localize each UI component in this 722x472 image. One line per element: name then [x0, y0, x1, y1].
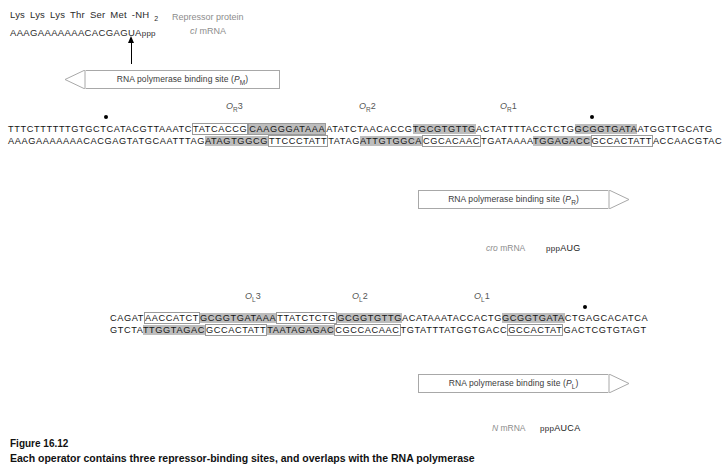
sequence-segment: TTCCCTATT [268, 135, 328, 147]
repressor-protein-block: LysLysLysThrSerMet-NH2 AAAGAAAAAAACACGAG… [10, 8, 158, 40]
or-left-dot-marker-icon [104, 115, 108, 119]
sequence-segment: ATAGTGGCG [205, 136, 268, 146]
sequence-segment: TATCACCG [192, 123, 248, 135]
sequence-segment: GCGGTGATA [502, 313, 565, 323]
amino-acid-2: Lys [30, 9, 45, 20]
sequence-segment: AACCATCT [144, 312, 200, 324]
sequence-segment: TGATAAAA [481, 136, 533, 146]
operator-label-ol2: OL2 [352, 291, 368, 303]
amino-acid-1: Lys [10, 9, 25, 20]
operator-label-or2: OR2 [359, 101, 376, 113]
figure-number: Figure 16.12 [10, 437, 475, 451]
sequence-segment: GCCACTAT [507, 324, 563, 336]
sequence-segment: GCCACTATT [205, 324, 267, 336]
sequence-segment: TGTATTTATGGTGACC [401, 325, 508, 335]
pr-arrow-body: RNA polymerase binding site (PR) [418, 190, 608, 209]
sequence-segment: ATTGTGGCA [360, 136, 422, 146]
arrow-head-right-icon [608, 374, 630, 393]
figure-title: Each operator contains three repressor-b… [10, 451, 475, 465]
amino-terminus: -NH2 [132, 9, 159, 20]
sequence-segment: TATAG [328, 136, 360, 146]
pl-arrow-body: RNA polymerase binding site (PL) [418, 374, 608, 393]
sequence-segment: ATATCTAACACCG [326, 124, 413, 134]
legend-repressor-protein: Repressor protein [172, 10, 244, 24]
or-top-strand: TTTCTTTTTTGTGCTCATACGTTAAATCTATCACCGCAAG… [8, 124, 713, 136]
sequence-segment: CAGAT [110, 313, 144, 323]
operator-label-or1: OR1 [500, 101, 517, 113]
pr-label: RNA polymerase binding site (PR) [448, 194, 579, 206]
ol-right-dot-marker-icon [583, 305, 587, 309]
operator-label-or3: OR3 [226, 101, 243, 113]
sequence-segment: GCGGTGATA [575, 124, 638, 134]
sequence-segment: CGCCACAAC [334, 324, 400, 336]
sequence-segment: GTCTA [110, 325, 143, 335]
ol-bottom-strand: GTCTATTGGTAGACGCCACTATTTAATAGAGACCGCCACA… [110, 325, 647, 337]
pr-binding-site-arrow: RNA polymerase binding site (PR) [418, 190, 630, 209]
sequence-segment: TGCGTGTTG [413, 124, 476, 134]
ci-mrna-bases: AAAGAAAAAAACACGAGUA [10, 27, 142, 38]
sequence-segment: TGGAGACC [533, 136, 591, 146]
pl-label: RNA polymerase binding site (PL) [449, 378, 579, 390]
n-mrna-label: N mRNA [492, 423, 526, 433]
sequence-segment: ACCAACGTAC [653, 136, 722, 146]
operator-label-ol1: OL1 [474, 291, 490, 303]
sequence-segment: ATGGTTGCATG [637, 124, 712, 134]
sequence-segment: CTGAGCACATCA [565, 313, 648, 323]
pm-arrow-body: RNA polymerase binding site (PM) [86, 70, 280, 89]
sequence-segment: ACTATTTTACCTCTG [476, 124, 575, 134]
sequence-segment: TTGGTAGAC [143, 325, 205, 335]
ci-transcription-arrow-icon [131, 42, 132, 64]
ci-mrna-ppp: ppp [142, 29, 156, 38]
amino-acid-4: Thr [70, 9, 85, 20]
pm-binding-site-arrow: RNA polymerase binding site (PM) [64, 70, 280, 89]
pl-binding-site-arrow: RNA polymerase binding site (PL) [418, 374, 630, 393]
sequence-segment: GCGGTGTTG [337, 313, 402, 323]
sequence-segment: GACTCGTGTAGT [563, 325, 646, 335]
sequence-segment: AAAGAAAAAAACACGAGTATGCAATTTAG [8, 136, 205, 146]
legend-ci-mrna: cI mRNA [190, 24, 244, 38]
amino-acid-3: Lys [50, 9, 65, 20]
or-right-dot-marker-icon [590, 115, 594, 119]
sequence-segment: GCGGTGATAAA [200, 313, 276, 323]
sequence-segment: TTTCTTTTTTGTGCTCATACGTTAAATC [8, 124, 192, 134]
arrow-head-left-icon [64, 70, 86, 89]
sequence-segment: CGCACAAC [422, 135, 481, 147]
sequence-segment: GCCACTATT [591, 135, 653, 147]
pm-label: RNA polymerase binding site (PM) [117, 74, 248, 86]
cro-mrna-label: cro mRNA [486, 243, 525, 253]
arrow-head-right-icon [608, 190, 630, 209]
repressor-legend: Repressor protein cI mRNA [172, 10, 244, 38]
cro-mrna-start: pppAUG [546, 243, 581, 253]
or-bottom-strand: AAAGAAAAAAACACGAGTATGCAATTTAGATAGTGGCGTT… [8, 136, 722, 148]
sequence-segment: TAATAGAGAC [267, 325, 334, 335]
amino-acid-row: LysLysLysThrSerMet-NH2 [10, 8, 158, 25]
sequence-segment: TTATCTCTG [276, 312, 337, 324]
sequence-segment: ACATAAATACCACTG [402, 313, 502, 323]
operator-label-ol3: OL3 [245, 291, 261, 303]
figure-caption: Figure 16.12 Each operator contains thre… [10, 437, 475, 465]
n-mrna-start: pppAUCA [540, 423, 580, 433]
amino-acid-6: Met [110, 9, 126, 20]
amino-acid-5: Ser [90, 9, 105, 20]
sequence-segment: CAAGGGATAAA [248, 123, 326, 135]
ol-top-strand: CAGATAACCATCTGCGGTGATAAATTATCTCTGGCGGTGT… [110, 313, 648, 325]
ci-mrna-sequence: AAAGAAAAAAACACGAGUAppp [10, 26, 158, 40]
